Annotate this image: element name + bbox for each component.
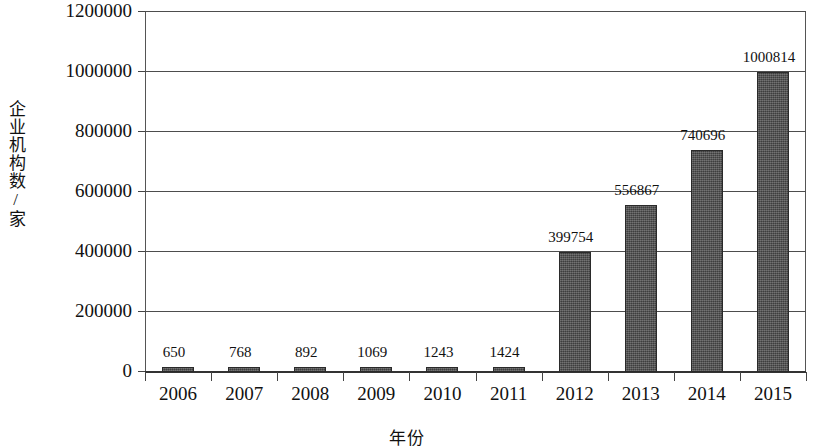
plot-area: [145, 11, 806, 372]
x-axis-tick-mark: [211, 372, 212, 381]
bar: [493, 367, 525, 372]
bar: [757, 72, 789, 372]
x-axis-tick-mark: [409, 372, 410, 381]
x-axis-tick-mark: [740, 372, 741, 381]
x-axis-title: 年份: [0, 424, 814, 448]
y-axis-tick-label: 200000: [32, 301, 132, 320]
bar: [228, 367, 260, 372]
x-axis-tick-mark: [542, 372, 543, 381]
y-axis-tick-labels: 120000010000008000006000004000002000000: [32, 0, 132, 448]
bar-value-label: 556867: [577, 183, 697, 198]
y-axis-tick-label: 600000: [32, 181, 132, 200]
bar: [162, 367, 194, 372]
bar: [426, 367, 458, 372]
y-axis-tick-label: 1200000: [32, 1, 132, 20]
y-axis-tick-label: 1000000: [32, 61, 132, 80]
bar-value-label: 1000814: [709, 50, 814, 65]
bar: [294, 367, 326, 372]
x-axis-tick-mark: [277, 372, 278, 381]
y-axis-tick-mark: [138, 191, 145, 192]
gridline: [145, 71, 806, 72]
y-axis-tick-mark: [138, 251, 145, 252]
y-axis-tick-mark: [138, 11, 145, 12]
y-axis-title: 企业机构数/家: [2, 100, 26, 290]
x-axis-tick-mark: [674, 372, 675, 381]
bar-value-label: 399754: [511, 230, 631, 245]
x-axis-tick-label: 2015: [733, 384, 813, 403]
x-axis-tick-mark: [806, 372, 807, 381]
bar: [360, 367, 392, 372]
x-axis-tick-mark: [343, 372, 344, 381]
x-axis-tick-mark: [476, 372, 477, 381]
y-axis-tick-mark: [138, 71, 145, 72]
y-axis-tick-label: 0: [32, 361, 132, 380]
y-axis-tick-label: 800000: [32, 121, 132, 140]
bar-chart: 企业机构数/家 12000001000000800000600000400000…: [0, 0, 814, 448]
bar-value-label: 1424: [445, 345, 565, 360]
bar-value-label: 740696: [643, 128, 763, 143]
x-axis-tick-mark: [145, 372, 146, 381]
x-axis-tick-mark: [608, 372, 609, 381]
y-axis-tick-mark: [138, 371, 145, 372]
gridline: [145, 11, 806, 12]
y-axis-tick-label: 400000: [32, 241, 132, 260]
y-axis-tick-mark: [138, 131, 145, 132]
y-axis-tick-mark: [138, 311, 145, 312]
